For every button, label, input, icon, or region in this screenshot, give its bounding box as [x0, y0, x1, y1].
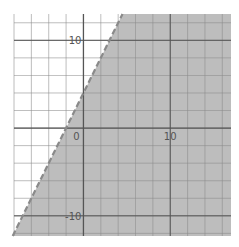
shaded-region: [13, 14, 231, 236]
inequality-graph: 01010-10: [0, 0, 239, 247]
y-tick-label: 10: [69, 35, 82, 46]
shaded-polygon: [13, 14, 231, 236]
x-tick-label: 10: [164, 131, 177, 142]
x-tick-label: 0: [73, 131, 79, 142]
y-tick-label: -10: [65, 211, 81, 222]
